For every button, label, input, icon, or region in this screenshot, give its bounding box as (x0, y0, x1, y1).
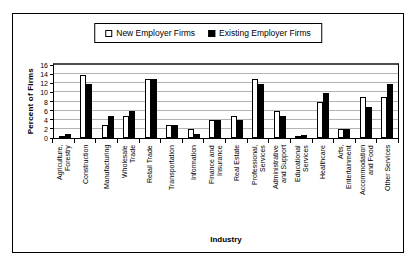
x-label-cell: Manufacturing (96, 145, 118, 231)
y-tick-label: 4 (44, 116, 48, 123)
x-label-cell: Information (183, 145, 205, 231)
chart-screenshot: New Employer Firms Existing Employer Fir… (0, 0, 414, 265)
x-category-label: Finance and Insurance (208, 145, 223, 231)
x-tick-mark (203, 139, 204, 143)
x-label-cell: Agriculture, Forestry (53, 145, 75, 231)
bar-group (183, 65, 205, 138)
y-tick-label: 16 (40, 62, 48, 69)
bar-existing-employer-firms (151, 79, 157, 138)
x-category-label: Real Estate (233, 145, 241, 231)
bar-existing-employer-firms (344, 129, 350, 138)
x-category-label: Accommodation and Food (359, 145, 374, 231)
bar-existing-employer-firms (301, 135, 307, 138)
chart-figure: New Employer Firms Existing Employer Fir… (12, 13, 404, 253)
x-tick-mark (290, 139, 291, 143)
bar-existing-employer-firms (280, 116, 286, 138)
bar-group (291, 65, 313, 138)
x-label-cell: Other Services (377, 145, 399, 231)
x-tick-mark (182, 139, 183, 143)
bar-existing-employer-firms (129, 111, 135, 138)
bar-group (205, 65, 227, 138)
x-category-label: Arts, Entertainment (337, 145, 352, 231)
bar-group (269, 65, 291, 138)
x-label-cell: Real Estate (226, 145, 248, 231)
x-label-cell: Administrative and Support (269, 145, 291, 231)
bar-existing-employer-firms (172, 125, 178, 138)
x-label-cell: Professional, Services (248, 145, 270, 231)
x-tick-mark (52, 139, 53, 143)
x-tick-mark (247, 139, 248, 143)
x-label-cell: Healthcare (313, 145, 335, 231)
x-category-label: Administrative and Support (272, 145, 287, 231)
legend-label-existing-employer-firms: Existing Employer Firms (219, 28, 311, 38)
x-tick-mark (160, 139, 161, 143)
y-tick-label: 8 (44, 98, 48, 105)
y-tick-label: 14 (40, 71, 48, 78)
bar-existing-employer-firms (65, 134, 71, 138)
x-label-cell: Retail Trade (140, 145, 162, 231)
bar-group (355, 65, 377, 138)
x-tick-mark (225, 139, 226, 143)
bar-existing-employer-firms (215, 120, 221, 138)
x-label-cell: Transportation (161, 145, 183, 231)
x-tick-mark (376, 139, 377, 143)
x-category-label: Information (190, 145, 198, 231)
x-category-label: Educational Services (294, 145, 309, 231)
bar-group (54, 65, 76, 138)
bar-group (97, 65, 119, 138)
bar-group (248, 65, 270, 138)
x-category-label: Wholesale Trade (121, 145, 136, 231)
bar-existing-employer-firms (86, 84, 92, 138)
legend-item-existing-employer-firms: Existing Employer Firms (208, 28, 311, 38)
x-label-cell: Finance and Insurance (204, 145, 226, 231)
bar-group (334, 65, 356, 138)
bars-layer (54, 65, 398, 138)
bar-group (226, 65, 248, 138)
x-tick-mark (333, 139, 334, 143)
bar-existing-employer-firms (258, 84, 264, 138)
bar-group (76, 65, 98, 138)
bar-existing-employer-firms (237, 120, 243, 138)
x-category-label: Retail Trade (146, 145, 154, 231)
x-category-label: Professional, Services (251, 145, 266, 231)
legend-item-new-employer-firms: New Employer Firms (105, 28, 195, 38)
x-category-label: Healthcare (319, 145, 327, 231)
x-category-label: Agriculture, Forestry (56, 145, 71, 231)
x-label-cell: Educational Services (291, 145, 313, 231)
bar-group (119, 65, 141, 138)
x-tick-mark (74, 139, 75, 143)
bar-existing-employer-firms (108, 116, 114, 138)
y-tick-label: 10 (40, 89, 48, 96)
x-category-label: Other Services (384, 145, 392, 231)
x-tick-mark (117, 139, 118, 143)
x-tick-mark (398, 139, 399, 143)
legend-label-new-employer-firms: New Employer Firms (116, 28, 195, 38)
existing-employer-firms-swatch-icon (208, 30, 215, 37)
x-axis-title: Industry (53, 235, 399, 244)
x-label-cell: Construction (75, 145, 97, 231)
x-tick-mark (139, 139, 140, 143)
x-axis-labels: Agriculture, ForestryConstructionManufac… (53, 145, 399, 231)
bar-existing-employer-firms (323, 93, 329, 138)
x-tick-mark (312, 139, 313, 143)
y-tick-label: 2 (44, 125, 48, 132)
x-category-label: Construction (82, 145, 90, 231)
y-tick-label: 12 (40, 80, 48, 87)
y-tick-label: 0 (44, 135, 48, 142)
bar-group (312, 65, 334, 138)
x-tick-mark (355, 139, 356, 143)
bar-group (140, 65, 162, 138)
x-tick-mark (268, 139, 269, 143)
bar-group (377, 65, 399, 138)
new-employer-firms-swatch-icon (105, 30, 112, 37)
y-axis-tick-labels: 1614121086420 (32, 65, 48, 138)
x-label-cell: Wholesale Trade (118, 145, 140, 231)
plot-area (53, 63, 399, 139)
bar-group (162, 65, 184, 138)
x-axis-tick-marks (53, 139, 399, 143)
x-category-label: Transportation (168, 145, 176, 231)
x-category-label: Manufacturing (103, 145, 111, 231)
x-label-cell: Arts, Entertainment (334, 145, 356, 231)
bar-existing-employer-firms (194, 134, 200, 138)
bar-existing-employer-firms (366, 107, 372, 138)
